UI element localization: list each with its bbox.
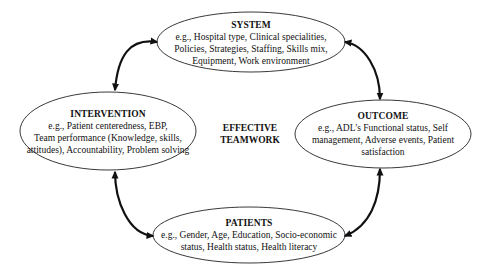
arrow-intervention-system bbox=[115, 41, 157, 90]
system-title: SYSTEM bbox=[231, 19, 271, 31]
system-line-1: e.g., Hospital type, Clinical specialiti… bbox=[175, 31, 326, 43]
outcome-node: OUTCOME e.g., ADL's Functional status, S… bbox=[295, 109, 471, 159]
arrow-outcome-patients bbox=[345, 169, 380, 236]
center-label-line-2: TEAMWORK bbox=[210, 134, 290, 146]
system-line-2: Policies, Strategies, Staffing, Skills m… bbox=[174, 43, 327, 55]
outcome-title: OUTCOME bbox=[358, 110, 409, 122]
patients-line-1: e.g., Gender, Age, Education, Socio-econ… bbox=[161, 229, 337, 241]
intervention-line-3: attitudes), Accountability, Problem solv… bbox=[27, 144, 190, 156]
system-line-3: Equipment, Work environment bbox=[192, 55, 310, 67]
center-label: EFFECTIVE TEAMWORK bbox=[210, 122, 290, 146]
arrow-system-outcome bbox=[345, 42, 380, 99]
intervention-title: INTERVENTION bbox=[70, 108, 145, 120]
outcome-line-2: management, Adverse events, Patient bbox=[312, 134, 454, 146]
patients-line-2: status, Health status, Health literacy bbox=[181, 241, 318, 253]
outcome-line-3: satisfaction bbox=[361, 146, 404, 158]
patients-title: PATIENTS bbox=[226, 217, 273, 229]
teamwork-cycle-diagram: SYSTEM e.g., Hospital type, Clinical spe… bbox=[0, 0, 492, 273]
intervention-node: INTERVENTION e.g., Patient centeredness,… bbox=[20, 107, 196, 157]
intervention-line-1: e.g., Patient centeredness, EBP, bbox=[48, 120, 167, 132]
intervention-line-2: Team performance (Knowledge, skills, bbox=[34, 132, 182, 144]
patients-node: PATIENTS e.g., Gender, Age, Education, S… bbox=[153, 216, 345, 254]
arrow-intervention-patients bbox=[115, 172, 153, 236]
outcome-line-1: e.g., ADL's Functional status, Self bbox=[318, 122, 448, 134]
center-label-line-1: EFFECTIVE bbox=[210, 122, 290, 134]
system-node: SYSTEM e.g., Hospital type, Clinical spe… bbox=[157, 18, 345, 68]
